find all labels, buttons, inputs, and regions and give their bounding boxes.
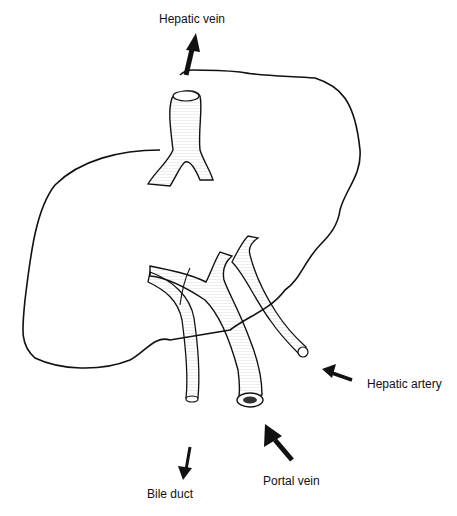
bile-duct-label: Bile duct [147,487,193,501]
portal-vein-arrow-icon [264,424,292,460]
hepatic-artery-arrow-icon [322,364,352,380]
hepatic-artery-label: Hepatic artery [367,377,442,391]
portal-vein-label: Portal vein [263,474,320,488]
hepatic-vein-trunk [148,91,213,186]
hepatic-vein-arrow-icon [186,33,200,75]
hepatic-vein-label: Hepatic vein [159,12,225,26]
bile-duct-arrow-icon [178,447,192,480]
liver-diagram [0,0,457,516]
